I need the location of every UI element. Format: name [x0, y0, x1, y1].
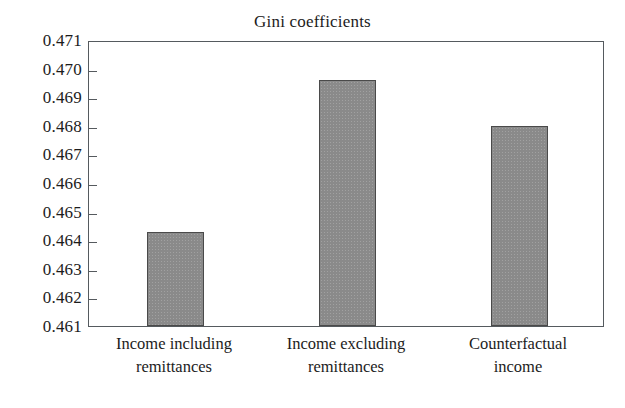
- y-axis-tick-label: 0.462: [43, 288, 82, 308]
- y-axis-tick-label: 0.470: [43, 60, 82, 80]
- x-axis-category-label-line: remittances: [88, 356, 260, 379]
- y-axis-tick-label: 0.463: [43, 260, 82, 280]
- y-axis-tick-label: 0.467: [43, 145, 82, 165]
- x-axis-category-label: Income excludingremittances: [260, 333, 432, 379]
- x-axis-category-label: Income includingremittances: [88, 333, 260, 379]
- bar: [491, 126, 548, 326]
- bar: [319, 80, 376, 326]
- x-axis-category-labels: Income includingremittancesIncome exclud…: [88, 333, 604, 403]
- y-axis-tick-label: 0.469: [43, 88, 82, 108]
- bar: [147, 232, 204, 326]
- y-axis-tick-label: 0.461: [43, 317, 82, 337]
- y-axis-tick-label: 0.465: [43, 203, 82, 223]
- y-axis-tick-labels: 0.4710.4700.4690.4680.4670.4660.4650.464…: [0, 41, 82, 327]
- x-axis-category-label-line: Income including: [88, 333, 260, 356]
- x-axis-category-label: Counterfactualincome: [432, 333, 604, 379]
- chart-figure: Gini coefficients 0.4710.4700.4690.4680.…: [0, 0, 625, 408]
- y-axis-tick-label: 0.466: [43, 174, 82, 194]
- bar-series: [89, 42, 603, 326]
- x-axis-category-label-line: Counterfactual: [432, 333, 604, 356]
- y-axis-tick-label: 0.471: [43, 31, 82, 51]
- x-axis-category-label-line: remittances: [260, 356, 432, 379]
- y-axis-tick-label: 0.464: [43, 231, 82, 251]
- x-axis-category-label-line: Income excluding: [260, 333, 432, 356]
- chart-title: Gini coefficients: [0, 12, 625, 32]
- y-axis-tick-label: 0.468: [43, 117, 82, 137]
- x-axis-category-label-line: income: [432, 356, 604, 379]
- plot-area: [88, 41, 604, 327]
